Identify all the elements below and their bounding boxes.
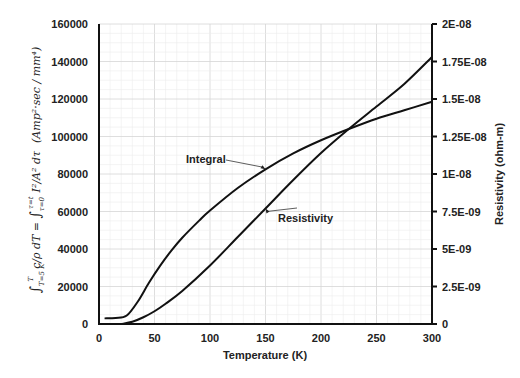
y-right-tick-label: 5E-09	[442, 243, 471, 255]
series-line-integral	[105, 102, 432, 319]
y-left-axis-title-text: ∫T=5 KTc/ρ dT = ∫τ=0τ=tI²/A² dτ(Amp²·sec…	[27, 47, 46, 294]
y-right-tick-label: 0	[442, 318, 448, 330]
x-tick-label: 50	[148, 332, 160, 344]
chart: 050100150200250300 020000400006000080000…	[0, 0, 520, 378]
annotation-integral: Integral	[186, 153, 226, 165]
y-right-tick-label: 1.5E-08	[442, 93, 481, 105]
y-left-tick-label: 80000	[57, 168, 88, 180]
x-tick-label: 0	[96, 332, 102, 344]
x-tick-label: 100	[201, 332, 219, 344]
y-left-tick-label: 0	[82, 318, 88, 330]
curves	[105, 57, 432, 324]
y-right-tick-label: 2.5E-09	[442, 281, 481, 293]
x-tick-label: 150	[256, 332, 274, 344]
annotation-leader-integral	[226, 160, 264, 167]
y-right-tick-label: 2E-08	[442, 18, 471, 30]
y-right-tick-label: 1E-08	[442, 168, 471, 180]
x-tick-label: 200	[312, 332, 330, 344]
y-left-tick-label: 60000	[57, 206, 88, 218]
annotation-leader-resistivity	[267, 208, 298, 212]
x-axis-title: Temperature (K)	[223, 349, 307, 361]
y-right-tick-label: 1.25E-08	[442, 131, 487, 143]
y-right-tick-label: 7.5E-09	[442, 206, 481, 218]
y-left-axis-title: ∫T=5 KTc/ρ dT = ∫τ=0τ=tI²/A² dτ(Amp²·sec…	[27, 47, 46, 294]
y-left-tick-label: 40000	[57, 243, 88, 255]
y-right-axis-title: Resistivity (ohm-m)	[493, 123, 505, 225]
y-left-tick-label: 120000	[51, 93, 88, 105]
y-left-tick-label: 20000	[57, 281, 88, 293]
x-tick-labels: 050100150200250300	[96, 332, 441, 344]
y-left-tick-labels: 0200004000060000800001000001200001400001…	[51, 18, 88, 330]
y-left-tick-label: 160000	[51, 18, 88, 30]
annotation-resistivity: Resistivity	[278, 212, 334, 224]
x-tick-label: 300	[423, 332, 441, 344]
y-right-tick-label: 1.75E-08	[442, 56, 487, 68]
y-left-tick-label: 100000	[51, 131, 88, 143]
x-tick-label: 250	[367, 332, 385, 344]
arrowhead-integral	[261, 165, 266, 169]
grid	[99, 24, 432, 324]
y-right-tick-labels: 02.5E-095E-097.5E-091E-081.25E-081.5E-08…	[442, 18, 487, 330]
y-left-tick-label: 140000	[51, 56, 88, 68]
